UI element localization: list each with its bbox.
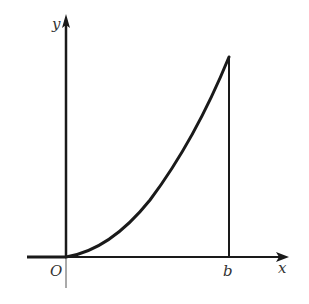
b-label: b (223, 262, 233, 280)
function-curve (66, 57, 229, 257)
y-axis-label: y (51, 15, 61, 33)
x-axis-label: x (278, 259, 287, 277)
function-graph-diagram: y x O b (0, 0, 309, 304)
origin-label: O (50, 262, 62, 280)
